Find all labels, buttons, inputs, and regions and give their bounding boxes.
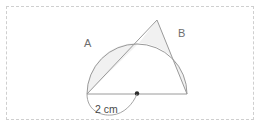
geometry-figure: A B 2 cm bbox=[0, 0, 261, 127]
region-a-label: A bbox=[84, 37, 92, 49]
region-b-label: B bbox=[178, 27, 185, 39]
dimension-label: 2 cm bbox=[95, 103, 118, 115]
triangle-side-left bbox=[87, 20, 157, 94]
geometry-drawing: A B 2 cm bbox=[0, 0, 261, 127]
